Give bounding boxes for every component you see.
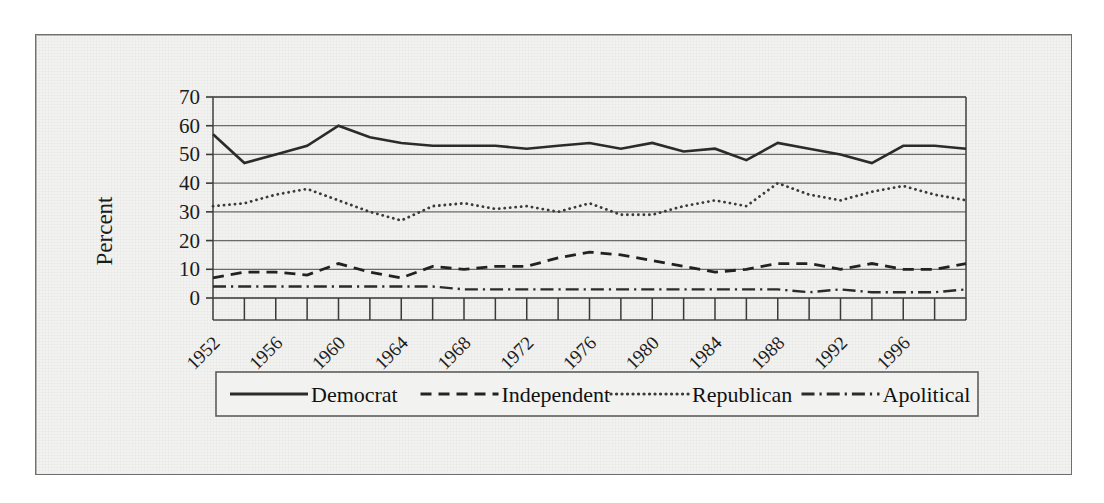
y-axis-title: Percent — [92, 196, 117, 266]
x-tick-label: 1960 — [308, 332, 350, 374]
x-tick-label: 1984 — [684, 332, 726, 374]
y-tick-label: 10 — [179, 257, 200, 281]
y-tick-label: 40 — [179, 171, 200, 195]
y-axis-title-text: Percent — [92, 196, 117, 266]
x-tick-label: 1996 — [872, 332, 914, 374]
y-tick-label: 50 — [179, 142, 200, 166]
x-tick-label: 1972 — [496, 332, 538, 374]
series-line-independent — [213, 252, 966, 278]
legend-label-independent: Independent — [502, 382, 611, 407]
figure-frame: Percent 010203040506070 1952195619601964… — [35, 34, 1072, 475]
x-tick-label: 1988 — [747, 332, 789, 374]
legend-label-democrat: Democrat — [311, 382, 398, 407]
y-tick-label: 60 — [179, 114, 200, 138]
x-tick-label: 1968 — [433, 332, 475, 374]
y-tick-label: 30 — [179, 200, 200, 224]
legend-label-republican: Republican — [692, 382, 792, 407]
x-tick-label: 1964 — [370, 332, 412, 374]
line-chart: Percent 010203040506070 1952195619601964… — [36, 35, 1071, 474]
y-axis-ticks: 010203040506070 — [179, 85, 213, 310]
x-tick-label: 1952 — [182, 332, 224, 374]
chart-legend: DemocratIndependentRepublicanApolitical — [216, 372, 978, 416]
x-tick-label: 1980 — [621, 332, 663, 374]
series-line-democrat — [213, 126, 966, 163]
series-line-republican — [213, 183, 966, 220]
y-tick-label: 70 — [179, 85, 200, 109]
x-axis-ticks: 1952195619601964196819721976198019841988… — [182, 298, 966, 374]
x-tick-label: 1992 — [810, 332, 852, 374]
y-tick-label: 0 — [190, 286, 201, 310]
data-series-group — [213, 126, 966, 293]
series-line-apolitical — [213, 287, 966, 293]
y-tick-label: 20 — [179, 229, 200, 253]
x-tick-label: 1956 — [245, 332, 287, 374]
x-tick-label: 1976 — [559, 332, 601, 374]
legend-label-apolitical: Apolitical — [883, 382, 971, 407]
